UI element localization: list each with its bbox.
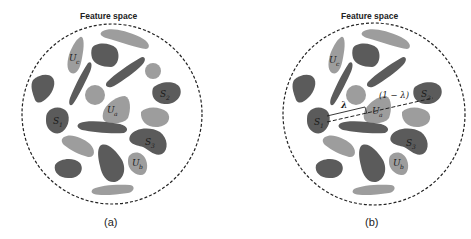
cluster-dark <box>55 159 82 178</box>
svg-text:1: 1 <box>320 122 324 129</box>
svg-text:2: 2 <box>165 94 170 101</box>
cluster-light <box>62 135 94 157</box>
cluster-light <box>145 63 161 79</box>
cluster-light <box>323 135 355 157</box>
cluster-light <box>92 185 134 195</box>
svg-text:3: 3 <box>151 142 155 149</box>
svg-text:b: b <box>139 163 143 170</box>
feature-space-diagram-b: Feature space λ (1 − <box>235 0 471 239</box>
svg-text:3: 3 <box>412 143 416 150</box>
cluster-light <box>346 85 366 105</box>
cluster-dark <box>91 44 118 68</box>
cluster-light <box>141 108 169 128</box>
cluster-dark <box>32 75 55 103</box>
caption-b: (b) <box>365 216 378 228</box>
svg-text:b: b <box>400 163 404 170</box>
svg-text:a: a <box>114 110 118 117</box>
feature-space-diagram-a: Feature space <box>0 0 235 239</box>
feature-space-title: Feature space <box>80 11 137 21</box>
svg-text:1: 1 <box>59 121 63 128</box>
cluster-light <box>353 185 395 195</box>
cluster-light <box>85 85 105 105</box>
cluster-dark <box>78 121 128 133</box>
svg-text:a: a <box>379 111 383 118</box>
panel-b: Feature space λ (1 − <box>235 0 470 239</box>
caption-a: (a) <box>104 216 117 228</box>
cluster-dark <box>293 75 316 103</box>
cluster-dark <box>339 121 389 133</box>
cluster-light <box>402 108 430 128</box>
svg-text:2: 2 <box>426 94 431 101</box>
cluster-dark <box>352 44 379 68</box>
panel-a: Feature space <box>0 0 235 239</box>
cluster-dark <box>359 145 385 183</box>
cluster-dark <box>98 145 124 183</box>
lambda-label: λ <box>340 100 347 110</box>
feature-space-title: Feature space <box>341 11 398 21</box>
cluster-dark <box>316 159 343 178</box>
one-minus-lambda-label: (1 − λ) <box>379 90 409 100</box>
